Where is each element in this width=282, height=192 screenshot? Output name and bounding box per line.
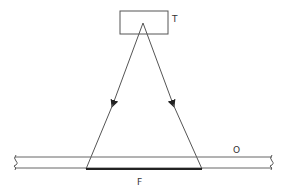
left-ray (86, 23, 143, 169)
source-box (120, 11, 168, 34)
diagram-canvas: T O F (0, 0, 282, 192)
label-plate: O (233, 145, 240, 155)
label-source: T (171, 14, 178, 24)
plate (14, 155, 273, 170)
label-footprint: F (137, 177, 142, 187)
right-ray (143, 23, 202, 169)
